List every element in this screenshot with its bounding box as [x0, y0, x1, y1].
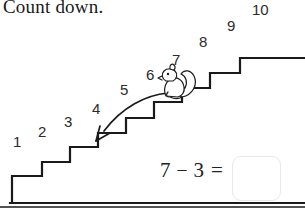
page-title: Count down.	[3, 0, 103, 18]
step-number: 3	[64, 114, 72, 129]
equation-equals-sign: =	[211, 158, 223, 183]
equation: 7 – 3 =	[160, 158, 223, 183]
equation-left-operand: 7	[160, 158, 171, 183]
worksheet-page: Count down.	[0, 0, 305, 210]
step-number: 4	[92, 101, 100, 116]
answer-input-box[interactable]	[232, 156, 281, 201]
step-number: 5	[120, 82, 128, 97]
step-number: 1	[13, 134, 21, 149]
step-number: 7	[172, 52, 180, 67]
equation-right-operand: 3	[194, 158, 205, 183]
step-number: 2	[38, 124, 46, 139]
equation-operator: –	[178, 159, 187, 180]
step-number: 6	[146, 67, 154, 82]
step-number: 10	[252, 2, 269, 17]
step-number: 9	[227, 18, 235, 33]
step-number: 8	[199, 34, 207, 49]
